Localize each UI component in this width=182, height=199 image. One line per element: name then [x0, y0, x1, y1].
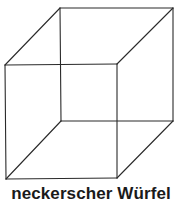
cube-edge — [6, 121, 61, 179]
cube-edge — [6, 178, 117, 179]
cube-edge — [117, 8, 173, 64]
cube-edge — [5, 8, 60, 65]
necker-cube-drawing — [0, 0, 182, 185]
necker-cube-figure: neckerscher Würfel — [0, 0, 182, 199]
cube-edge — [5, 64, 117, 65]
cube-edge — [5, 65, 6, 179]
cube-edge — [117, 121, 173, 178]
figure-caption: neckerscher Würfel — [0, 184, 182, 199]
